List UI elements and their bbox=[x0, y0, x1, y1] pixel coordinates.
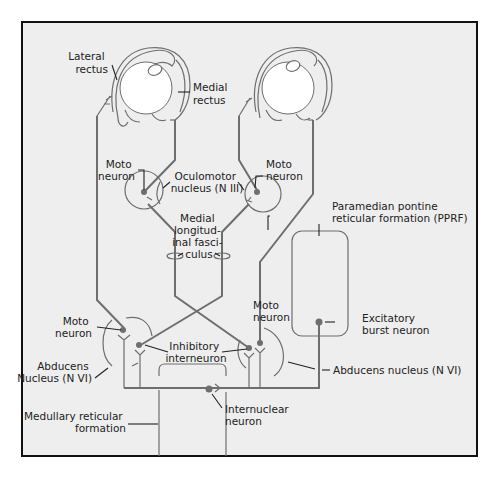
label-inhibitory-interneuron: Inhibitory interneuron bbox=[165, 340, 226, 364]
label-oculomotor-nucleus: Oculomotor nucleus (N III) bbox=[171, 170, 244, 194]
label-abducens-nucleus-right: Abducens nucleus (N VI) bbox=[333, 364, 461, 376]
label-medial-rectus: Medial rectus bbox=[193, 81, 231, 106]
diagram-panel bbox=[22, 22, 477, 456]
excitatory-burst-neuron bbox=[316, 319, 323, 326]
eye-movement-circuit-diagram: Lateral rectus Medial rectus Moto neuron… bbox=[0, 0, 497, 485]
internuclear-neuron-soma bbox=[206, 386, 213, 393]
